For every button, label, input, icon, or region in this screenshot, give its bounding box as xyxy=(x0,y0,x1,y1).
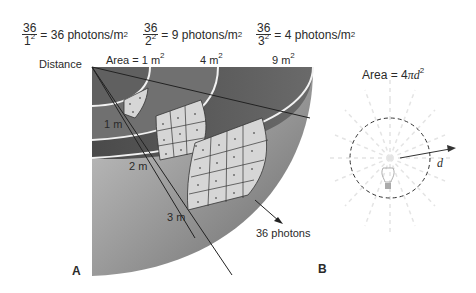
area-formula: Area = 4πd2 xyxy=(362,68,424,83)
light-bulb-icon xyxy=(382,168,394,189)
panel-b-label: B xyxy=(318,262,327,276)
radius-label: d xyxy=(437,156,443,171)
panel-b-sphere-diagram xyxy=(0,0,476,293)
